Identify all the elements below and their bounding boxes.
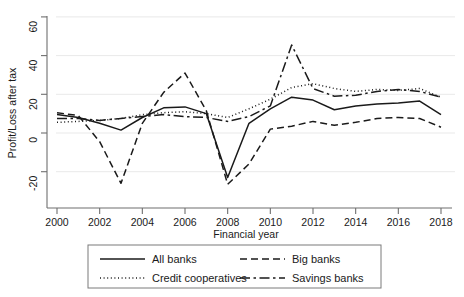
line-chart: -200204060200020022004200620082010201220… bbox=[0, 0, 464, 297]
y-tick-label--20: -20 bbox=[27, 176, 39, 191]
y-tick-label-20: 20 bbox=[27, 98, 39, 110]
x-tick-label-2010: 2010 bbox=[259, 216, 283, 228]
legend-label-savings-banks: Savings banks bbox=[292, 272, 364, 284]
y-axis-title: Profit/Loss after tax bbox=[6, 67, 18, 158]
series-line-savings-banks bbox=[57, 45, 441, 121]
y-tick-label-60: 60 bbox=[27, 21, 39, 33]
x-tick-label-2012: 2012 bbox=[301, 216, 325, 228]
x-tick-label-2018: 2018 bbox=[429, 216, 453, 228]
x-tick-label-2000: 2000 bbox=[45, 216, 69, 228]
chart-figure: -200204060200020022004200620082010201220… bbox=[0, 0, 464, 297]
y-tick-label-0: 0 bbox=[27, 137, 39, 143]
x-tick-label-2006: 2006 bbox=[173, 216, 197, 228]
y-tick-label-40: 40 bbox=[27, 59, 39, 71]
x-tick-label-2002: 2002 bbox=[88, 216, 112, 228]
x-tick-label-2016: 2016 bbox=[387, 216, 411, 228]
x-tick-label-2004: 2004 bbox=[131, 216, 155, 228]
x-axis-title: Financial year bbox=[213, 228, 279, 240]
x-tick-label-2008: 2008 bbox=[216, 216, 240, 228]
x-tick-label-2014: 2014 bbox=[344, 216, 368, 228]
legend-label-big-banks: Big banks bbox=[292, 253, 341, 265]
legend-label-all-banks: All banks bbox=[152, 253, 197, 265]
legend-label-credit-cooperatives: Credit cooperatives bbox=[152, 272, 247, 284]
